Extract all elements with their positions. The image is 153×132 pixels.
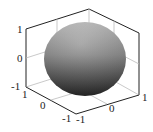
y-tick-0: 0 <box>40 99 46 111</box>
x-tick-neg1: -1 <box>76 113 85 125</box>
z-tick-neg1: -1 <box>11 80 20 92</box>
sphere-surface <box>44 22 126 96</box>
y-tick-1: 1 <box>22 88 28 100</box>
x-tick-1: 1 <box>142 91 148 103</box>
x-tick-0: 0 <box>109 102 115 114</box>
z-tick-0: 0 <box>17 52 23 64</box>
sphere-3d-plot: 1 0 -1 1 0 -1 -1 0 1 <box>0 0 153 132</box>
z-tick-labels: 1 0 -1 <box>11 23 23 92</box>
z-tick-1: 1 <box>17 23 23 35</box>
y-tick-labels: 1 0 -1 <box>22 88 71 124</box>
y-tick-neg1: -1 <box>62 112 71 124</box>
